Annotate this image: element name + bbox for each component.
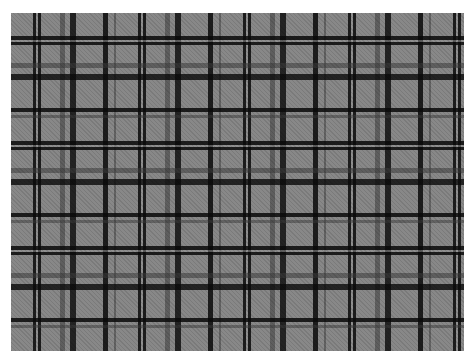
twill-texture: [11, 13, 464, 351]
plaid-fabric: [11, 13, 464, 351]
